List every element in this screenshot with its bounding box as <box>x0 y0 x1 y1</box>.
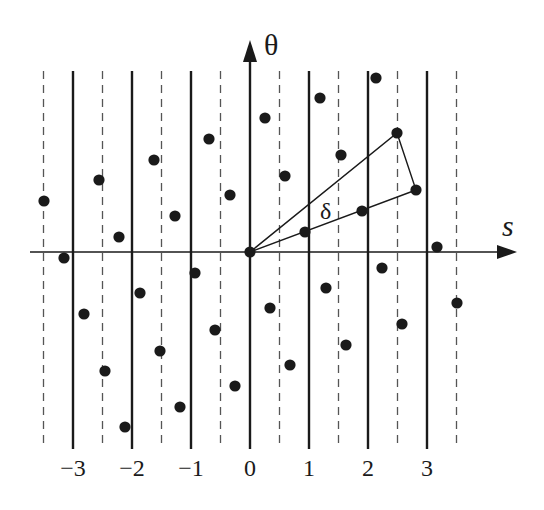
lattice-point <box>410 184 421 195</box>
tick-label: −2 <box>119 455 145 481</box>
lattice-point <box>335 149 346 160</box>
tick-label: 0 <box>244 455 256 481</box>
tick-labels: −3−2−10123 <box>60 455 433 481</box>
lattice-point <box>451 297 462 308</box>
lattice-point <box>134 287 145 298</box>
lattice-point <box>376 262 387 273</box>
tick-label: −3 <box>60 455 86 481</box>
lattice-point <box>209 324 220 335</box>
lattice-point <box>148 154 159 165</box>
theta-axis-label: θ <box>264 28 278 61</box>
tick-label: 2 <box>362 455 374 481</box>
lattice-point <box>314 92 325 103</box>
lattice-point <box>38 195 49 206</box>
lattice-point <box>93 174 104 185</box>
lattice-point <box>320 282 331 293</box>
lattice-point <box>431 241 442 252</box>
theta-axis-arrow-icon <box>243 40 257 62</box>
tick-label: 1 <box>303 455 315 481</box>
lattice-point <box>356 205 367 216</box>
lattice-point <box>370 72 381 83</box>
lattice-point <box>396 318 407 329</box>
diagram-canvas: s θ δ −3−2−10123 <box>0 0 544 510</box>
lattice-point <box>224 189 235 200</box>
lattice-point <box>113 231 124 242</box>
lattice-point <box>99 365 110 376</box>
tick-label: −1 <box>178 455 204 481</box>
lattice-point <box>340 339 351 350</box>
lattice-point <box>189 267 200 278</box>
delta-triangle: δ <box>250 133 416 252</box>
lattice-point <box>78 308 89 319</box>
lattice-point <box>259 112 270 123</box>
lattice-point <box>244 246 255 257</box>
lattice-point <box>154 345 165 356</box>
delta-label: δ <box>320 198 331 224</box>
s-axis-label: s <box>502 209 514 242</box>
lattice-point <box>279 170 290 181</box>
tick-label: 3 <box>421 455 433 481</box>
lattice-diagram: s θ δ −3−2−10123 <box>0 0 544 510</box>
triangle-outline <box>250 133 416 252</box>
lattice-point <box>299 226 310 237</box>
lattice-point <box>264 302 275 313</box>
lattice-point <box>229 380 240 391</box>
lattice-point <box>174 401 185 412</box>
theta-axis: θ <box>243 28 278 449</box>
s-axis-arrow-icon <box>497 245 517 259</box>
lattice-point <box>169 210 180 221</box>
lattice-point <box>284 359 295 370</box>
lattice-point <box>119 421 130 432</box>
lattice-point <box>203 133 214 144</box>
lattice-point <box>391 127 402 138</box>
lattice-point <box>58 252 69 263</box>
